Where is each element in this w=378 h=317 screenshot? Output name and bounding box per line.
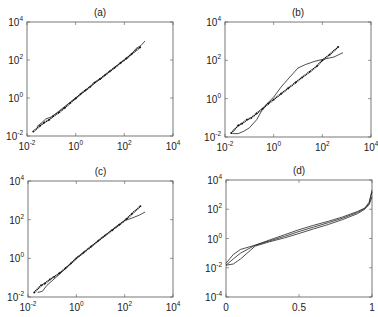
tick-label: 10-2 <box>217 140 234 153</box>
tick-label: 104 <box>166 139 181 152</box>
panel-d: (d)00.5110-410-2100102104 <box>205 165 375 313</box>
tick-label: 100 <box>266 140 281 153</box>
tick-label: 0 <box>223 302 229 313</box>
figure: (a)10-210010210410-2100102104(b)10-21001… <box>0 0 378 317</box>
tick-label: 104 <box>207 173 222 186</box>
tick-label: 100 <box>69 300 84 313</box>
panel-a: (a)10-210010210410-2100102104 <box>6 7 181 152</box>
tick-label: 100 <box>8 91 23 104</box>
tick-label: 10-2 <box>205 261 222 274</box>
tick-label: 100 <box>206 92 221 105</box>
data-line <box>232 53 343 134</box>
tick-label: 0.5 <box>292 302 306 313</box>
data-line <box>37 41 145 127</box>
tick-label: 102 <box>9 213 24 226</box>
tick-label: 10-2 <box>20 300 37 313</box>
data-line <box>226 190 372 265</box>
tick-label: 104 <box>364 140 378 153</box>
tick-label: 100 <box>9 251 24 264</box>
data-line <box>38 212 146 293</box>
tick-label: 102 <box>117 300 132 313</box>
tick-label: 10-4 <box>205 290 222 303</box>
tick-label: 10-2 <box>19 139 36 152</box>
panel-title: (b) <box>292 7 304 18</box>
panel-b: (b)10-210010210410-2100102104 <box>204 7 378 153</box>
tick-label: 104 <box>206 15 221 28</box>
tick-label: 102 <box>207 202 222 215</box>
tick-label: 102 <box>117 139 132 152</box>
tick-label: 100 <box>68 139 83 152</box>
axes-frame <box>226 180 372 297</box>
panel-c: (c)10-210010210410-2100102104 <box>7 166 181 313</box>
data-line <box>226 197 372 265</box>
tick-label: 100 <box>207 232 222 245</box>
tick-label: 104 <box>166 300 181 313</box>
panel-title: (c) <box>95 166 107 177</box>
tick-label: 104 <box>8 15 23 28</box>
panel-title: (a) <box>94 7 106 18</box>
tick-label: 102 <box>8 53 23 66</box>
tick-label: 1 <box>369 302 375 313</box>
tick-label: 104 <box>9 174 24 187</box>
tick-label: 102 <box>315 140 330 153</box>
panel-title: (d) <box>293 165 305 176</box>
tick-label: 102 <box>206 53 221 66</box>
